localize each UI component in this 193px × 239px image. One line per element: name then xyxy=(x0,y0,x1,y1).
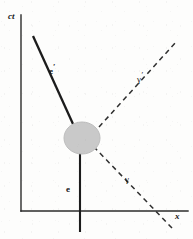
electron-outgoing-line xyxy=(33,36,73,124)
photon-incoming-line xyxy=(95,148,172,228)
electron-outgoing-label-prime: ′ xyxy=(53,63,55,72)
diagram-canvas xyxy=(0,0,193,239)
photon-incoming-label: γ xyxy=(125,172,129,184)
x-axis-label: x xyxy=(175,212,180,221)
photon-outgoing-label-prime: ′ xyxy=(141,71,143,80)
photon-outgoing-line xyxy=(99,42,176,127)
electron-incoming-label-text: e xyxy=(66,184,70,194)
electron-incoming-label: e xyxy=(66,182,70,194)
electron-outgoing-label: e′ xyxy=(49,64,55,76)
interaction-blob xyxy=(64,122,100,154)
spacetime-diagram-figure: ct x e e′ γ γ′ xyxy=(0,0,193,239)
ct-axis-label: ct xyxy=(8,12,15,21)
photon-outgoing-label: γ′ xyxy=(137,72,143,84)
photon-incoming-label-text: γ xyxy=(125,174,129,184)
